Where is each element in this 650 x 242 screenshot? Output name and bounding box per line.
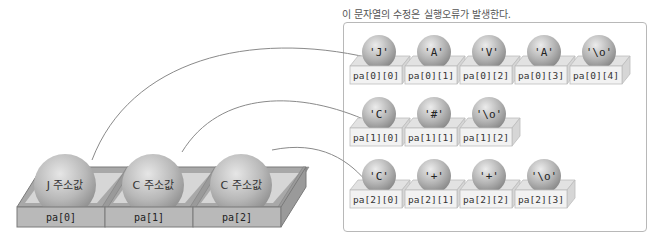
char-cell: 'C'pa[2][0]	[350, 159, 410, 208]
pointer-cell-label: pa[0]	[46, 212, 76, 223]
char-cell: '+'pa[2][1]	[405, 159, 465, 208]
pointer-cell-label: pa[2]	[222, 212, 252, 223]
char-cell-label: pa[0][2]	[463, 70, 509, 81]
char-value: '\o'	[476, 108, 503, 121]
address-ball-label: J 주소값	[46, 179, 84, 192]
char-value: 'A'	[534, 46, 554, 59]
string-row-1: 'C'pa[1][0]'#'pa[1][1]'\o'pa[1][2]	[350, 97, 520, 146]
pointer-cell-label: pa[1]	[134, 212, 164, 223]
char-cell: 'C'pa[1][0]	[350, 97, 410, 146]
string-row-0: 'J'pa[0][0]'A'pa[0][1]'V'pa[0][2]'A'pa[0…	[350, 35, 630, 84]
char-cell-label: pa[2][0]	[353, 194, 399, 205]
char-value: '+'	[479, 170, 499, 183]
char-value: '+'	[424, 170, 444, 183]
char-cell-label: pa[1][2]	[463, 132, 509, 143]
arrow-pa1	[182, 101, 370, 152]
char-cell: 'A'pa[0][1]	[405, 35, 465, 84]
char-value: 'C'	[369, 108, 389, 121]
char-cell-label: pa[0][4]	[573, 70, 619, 81]
char-value: 'V'	[479, 46, 499, 59]
char-cell: 'A'pa[0][3]	[515, 35, 575, 84]
char-value: '\o'	[531, 170, 558, 183]
pointer-array: J 주소값pa[0]C 주소값pa[1]C 주소값pa[2]	[17, 154, 309, 227]
char-cell-label: pa[1][1]	[408, 132, 454, 143]
char-cell-label: pa[0][3]	[518, 70, 564, 81]
char-cell: 'V'pa[0][2]	[460, 35, 520, 84]
char-cell: '\o'pa[1][2]	[460, 97, 520, 146]
char-value: 'J'	[369, 46, 389, 59]
address-ball-label: C 주소값	[220, 179, 261, 192]
char-cell: '#'pa[1][1]	[405, 97, 465, 146]
address-ball-label: C 주소값	[132, 179, 173, 192]
char-value: '#'	[424, 108, 444, 121]
char-cell: '+'pa[2][2]	[460, 159, 520, 208]
char-cell-label: pa[2][1]	[408, 194, 454, 205]
char-cell-label: pa[0][1]	[408, 70, 454, 81]
char-cell-label: pa[0][0]	[353, 70, 399, 81]
char-cell-label: pa[2][3]	[518, 194, 564, 205]
char-cell: '\o'pa[2][3]	[515, 159, 575, 208]
char-cell-label: pa[2][2]	[463, 194, 509, 205]
char-cell: '\o'pa[0][4]	[570, 35, 630, 84]
char-cell: 'J'pa[0][0]	[350, 35, 410, 84]
arrow-pa0	[92, 48, 370, 160]
char-cell-label: pa[1][0]	[353, 132, 399, 143]
char-value: 'A'	[424, 46, 444, 59]
char-value: 'C'	[369, 170, 389, 183]
char-value: '\o'	[586, 46, 613, 59]
string-rows: 'J'pa[0][0]'A'pa[0][1]'V'pa[0][2]'A'pa[0…	[350, 35, 630, 208]
string-row-2: 'C'pa[2][0]'+'pa[2][1]'+'pa[2][2]'\o'pa[…	[350, 159, 575, 208]
